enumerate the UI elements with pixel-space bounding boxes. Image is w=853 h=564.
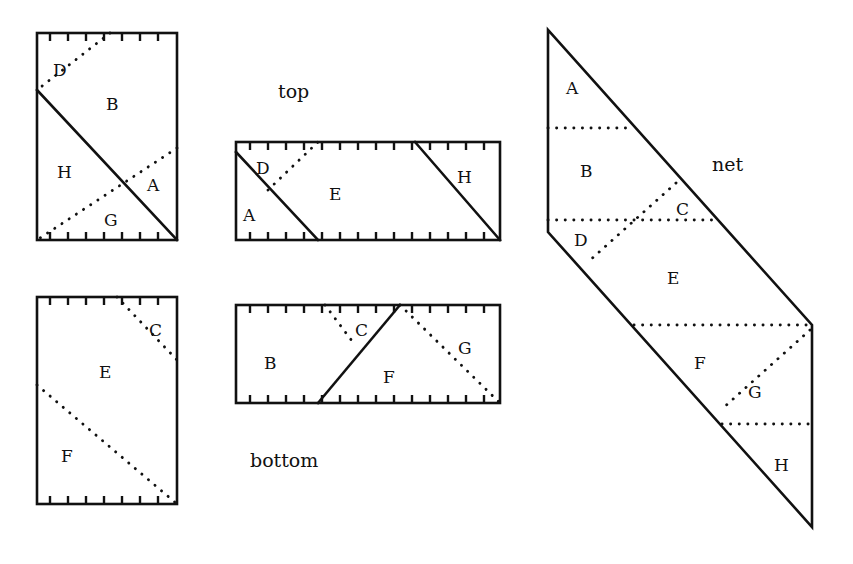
panel-top-fill	[236, 142, 500, 240]
region-label-d: D	[574, 230, 588, 250]
region-label-b: B	[580, 161, 593, 181]
region-label-h: H	[57, 162, 72, 182]
caption-top: top	[278, 80, 309, 102]
panel-net: A B C D E F G H net	[548, 30, 812, 527]
caption-net: net	[712, 153, 743, 175]
region-label-c: C	[676, 199, 689, 219]
region-label-g: G	[748, 382, 762, 402]
region-label-e: E	[667, 268, 679, 288]
panel-upper-left: D B H A G	[37, 33, 177, 240]
region-label-f: F	[383, 367, 395, 387]
region-label-f: F	[61, 446, 73, 466]
region-label-a: A	[242, 205, 256, 225]
region-label-e: E	[329, 184, 341, 204]
region-label-h: H	[774, 455, 789, 475]
geometry-figure: D B H A G	[0, 0, 853, 564]
region-label-b: B	[106, 94, 119, 114]
region-label-d: D	[53, 60, 67, 80]
region-label-d: D	[256, 158, 270, 178]
panel-lower-left: C E F	[37, 297, 177, 504]
panel-top: D A E H top	[236, 80, 500, 240]
region-label-a: A	[146, 175, 160, 195]
region-label-b: B	[264, 353, 277, 373]
region-label-a: A	[565, 78, 579, 98]
region-label-g: G	[104, 210, 118, 230]
region-label-g: G	[458, 338, 472, 358]
region-label-h: H	[457, 167, 472, 187]
caption-bottom: bottom	[250, 449, 318, 471]
region-label-c: C	[149, 320, 162, 340]
panel-bottom: B C F G bottom	[236, 305, 500, 471]
panel-net-fill	[548, 30, 812, 527]
region-label-e: E	[99, 362, 111, 382]
region-label-c: C	[355, 320, 368, 340]
region-label-f: F	[694, 353, 706, 373]
